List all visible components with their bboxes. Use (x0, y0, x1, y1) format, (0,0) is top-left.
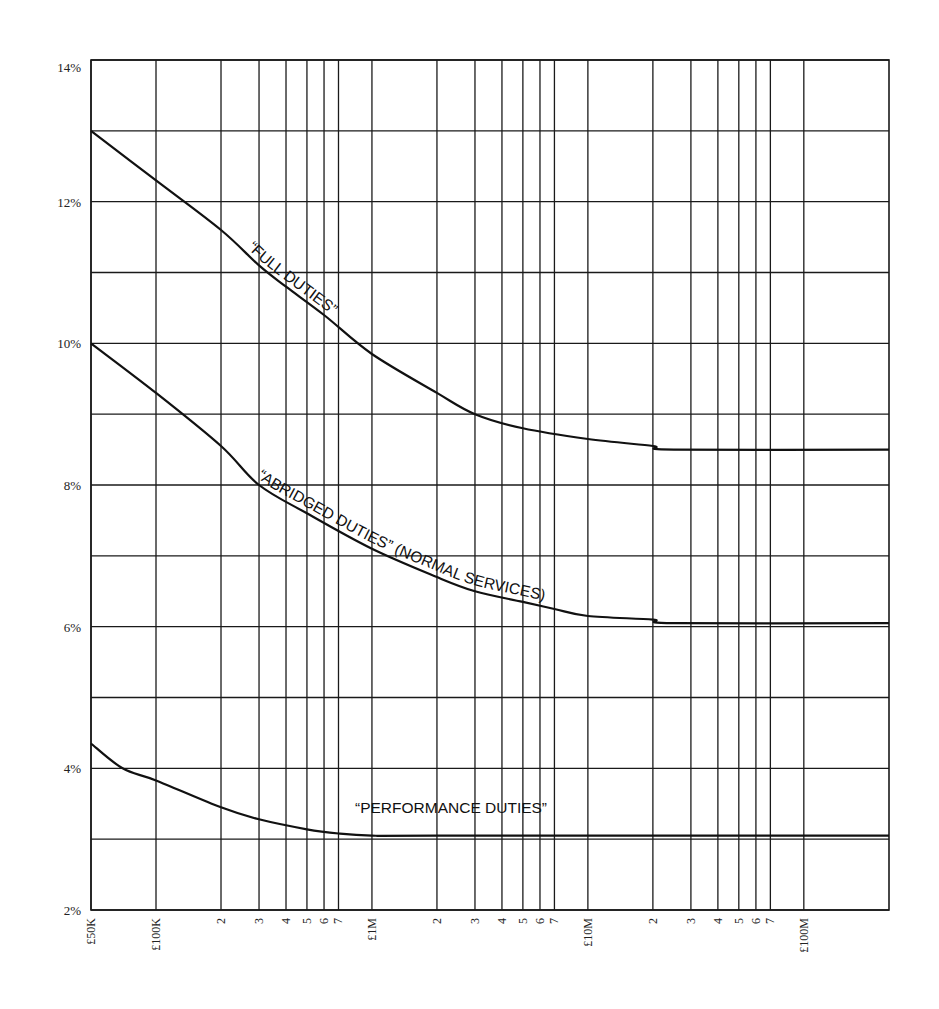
y-tick-label: 2% (64, 903, 82, 918)
x-axis-ticks: £50K£100K234567£1M234567£10M234567£100M (84, 918, 811, 953)
grid (91, 60, 889, 910)
y-tick-label: 8% (64, 478, 82, 493)
x-tick-label: 5 (732, 918, 746, 924)
x-tick-label: 5 (516, 918, 530, 924)
series-lines (91, 131, 889, 836)
x-tick-label: 3 (252, 918, 266, 924)
x-tick-label: 6 (533, 918, 547, 924)
x-tick-label: 4 (711, 918, 725, 924)
y-tick-label: 6% (64, 620, 82, 635)
x-tick-label: 3 (684, 918, 698, 924)
y-tick-label: 10% (57, 336, 81, 351)
x-tick-label: 7 (763, 918, 777, 924)
performance-duties-line (91, 744, 889, 836)
y-tick-label: 12% (57, 195, 81, 210)
duties-chart: 14%12%10%8%6%4%2% £50K£100K234567£1M2345… (0, 0, 939, 1009)
x-tick-label: 2 (646, 918, 660, 924)
y-tick-label: 4% (64, 761, 82, 776)
full-duties-line (91, 131, 889, 450)
x-tick-label: £1M (365, 918, 379, 941)
x-tick-label: 6 (749, 918, 763, 924)
x-tick-label: £100K (149, 918, 163, 951)
x-tick-label: 7 (331, 918, 345, 924)
x-tick-label: 5 (300, 918, 314, 924)
x-tick-label: £100M (797, 918, 811, 953)
y-tick-label: 14% (57, 60, 81, 75)
x-tick-label: 6 (317, 918, 331, 924)
x-tick-label: 7 (547, 918, 561, 924)
x-tick-label: £10M (581, 918, 595, 947)
x-tick-label: 2 (430, 918, 444, 924)
x-tick-label: 3 (468, 918, 482, 924)
x-tick-label: 4 (495, 918, 509, 924)
performance-duties-label: “PERFORMANCE DUTIES” (355, 799, 547, 816)
x-tick-label: £50K (84, 918, 98, 945)
abridged-duties-label: “ABRIDGED DUTIES” (NORMAL SERVICES) (255, 466, 548, 604)
x-tick-label: 2 (214, 918, 228, 924)
y-axis-ticks: 14%12%10%8%6%4%2% (57, 60, 81, 918)
x-tick-label: 4 (279, 918, 293, 924)
